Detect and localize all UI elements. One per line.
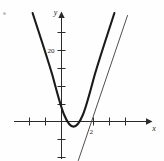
y-axis-group: 20 y	[48, 8, 66, 159]
x-axis-group: 2 x	[14, 118, 156, 137]
y-axis-arrowhead	[58, 12, 64, 19]
x-tick-label-2: 2	[89, 128, 93, 136]
y-tick-label-20: 20	[48, 47, 56, 55]
coordinate-plane: 2 x 20 y	[0, 0, 164, 161]
parabola-curve	[33, 13, 115, 127]
tangent-line	[78, 16, 127, 161]
x-axis-label: x	[151, 124, 156, 133]
y-axis-label: y	[53, 8, 58, 17]
graph-figure: 2 x 20 y	[0, 0, 164, 161]
